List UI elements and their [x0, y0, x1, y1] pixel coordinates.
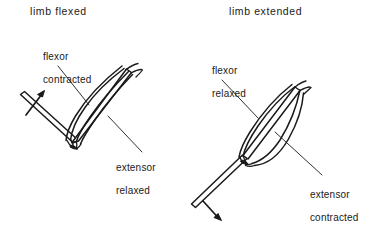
extended-flexor-muscle — [239, 85, 295, 158]
extended-upper-limb-segment — [243, 87, 300, 159]
label-extensor-relaxed-line1: extensor — [116, 162, 156, 173]
label-extensor-contracted: extensor contracted — [298, 177, 359, 229]
label-extensor-relaxed-line2: relaxed — [116, 185, 150, 196]
label-flexor-contracted-line2: contracted — [43, 74, 92, 85]
panel-title-limb-extended: limb extended — [229, 6, 302, 18]
extended-lower-limb-segment — [192, 155, 248, 208]
panel-title-limb-flexed: limb flexed — [30, 6, 87, 18]
label-extensor-contracted-line1: extensor — [310, 189, 350, 200]
label-flexor-contracted: flexor contracted — [31, 39, 92, 97]
label-extensor-relaxed: extensor relaxed — [104, 150, 156, 208]
limb-muscle-diagram: limb flexed flexor contracted extensor r… — [0, 0, 392, 229]
flexed-lower-limb-segment — [21, 92, 78, 144]
leader-extensor-relaxed — [108, 116, 142, 152]
label-flexor-relaxed: flexor relaxed — [200, 53, 246, 111]
label-flexor-contracted-line1: flexor — [43, 51, 69, 62]
leader-extensor-contracted — [275, 132, 322, 175]
label-flexor-relaxed-line2: relaxed — [212, 88, 246, 99]
label-extensor-contracted-line2: contracted — [310, 212, 359, 223]
extended-motion-arrow — [203, 201, 222, 221]
label-flexor-relaxed-line1: flexor — [212, 65, 238, 76]
